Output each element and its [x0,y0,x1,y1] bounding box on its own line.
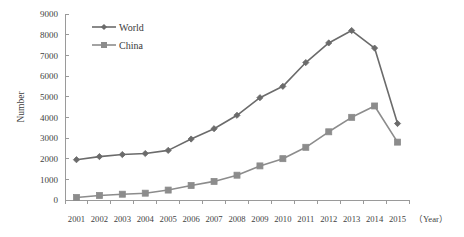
x-axis-title: （Year） [414,214,448,224]
data-point-marker [165,187,171,193]
x-tick-label: 2010 [274,214,291,224]
x-tick-label: 2014 [366,214,384,224]
legend-item-world[interactable]: World [92,22,144,33]
x-tick-label: 2015 [389,214,406,224]
data-point-marker [326,129,332,135]
y-tick-label: 3000 [40,133,59,143]
data-point-marker [96,154,102,160]
x-tick-label: 2006 [183,214,201,224]
data-point-marker [119,191,125,197]
y-tick-label: 9000 [40,9,59,19]
x-tick-label: 2005 [160,214,177,224]
data-point-marker [372,103,378,109]
x-tick-label: 2004 [137,214,155,224]
y-tick-label: 5000 [40,92,59,102]
x-axis-ticks [65,200,409,204]
legend-marker [101,24,107,30]
x-tick-label: 2013 [343,214,360,224]
data-point-marker [96,192,102,198]
data-point-marker [395,139,401,145]
data-point-marker [349,114,355,120]
data-point-marker [73,195,79,201]
y-tick-label: 7000 [40,51,59,61]
chart-container: 0100020003000400050006000700080009000 20… [0,0,464,237]
x-tick-label: 2011 [297,214,314,224]
data-point-marker [73,157,79,163]
data-point-marker [142,190,148,196]
x-axis-group: 2001200220032004200520062007200820092010… [65,200,409,224]
y-tick-label: 4000 [40,113,59,123]
x-tick-label: 2008 [228,214,245,224]
data-point-marker [188,183,194,189]
y-tick-label: 1000 [40,175,59,185]
x-tick-label: 2012 [320,214,337,224]
chart-legend: WorldChina [92,22,144,51]
legend-label: World [119,22,144,33]
y-tick-label: 6000 [40,71,59,81]
y-axis-ticks [65,14,69,200]
y-tick-label: 2000 [40,154,59,164]
y-axis-group: 0100020003000400050006000700080009000 [40,9,69,205]
data-point-marker [234,172,240,178]
data-point-marker [188,136,194,142]
x-tick-label: 2009 [251,214,268,224]
y-tick-label: 8000 [40,30,59,40]
line-chart: 0100020003000400050006000700080009000 20… [0,0,464,237]
y-tick-label: 0 [54,195,59,205]
x-axis-tick-labels: 2001200220032004200520062007200820092010… [68,214,406,224]
data-point-marker [211,178,217,184]
data-point-marker [280,156,286,162]
legend-item-china[interactable]: China [92,40,143,51]
data-point-marker [394,120,400,126]
y-axis-tick-labels: 0100020003000400050006000700080009000 [40,9,59,205]
x-tick-label: 2001 [68,214,85,224]
data-point-marker [303,144,309,150]
data-point-marker [119,151,125,157]
legend-label: China [119,40,143,51]
data-series-layer [73,27,400,200]
x-tick-label: 2002 [91,214,108,224]
x-tick-label: 2007 [205,214,223,224]
data-point-marker [165,147,171,153]
legend-marker [101,42,107,48]
data-point-marker [142,150,148,156]
x-tick-label: 2003 [114,214,131,224]
data-point-marker [257,163,263,169]
y-axis-title: Number [16,91,26,123]
